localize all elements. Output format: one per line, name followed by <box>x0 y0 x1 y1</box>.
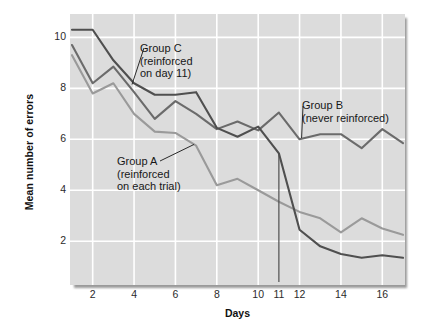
x-axis-tick-label: 8 <box>205 288 229 300</box>
x-axis-tick-label: 4 <box>122 288 146 300</box>
x-axis-tick-label: 12 <box>288 288 312 300</box>
series-line-group-a <box>72 55 403 235</box>
y-axis-tick-label: 2 <box>42 234 66 246</box>
y-axis-ticks: 108642 <box>30 0 66 331</box>
y-axis-title: Mean number of errors <box>23 57 35 247</box>
grid-lines <box>70 14 405 285</box>
chart-figure: 108642 Mean number of errors Days Group … <box>0 0 431 331</box>
chart-svg <box>70 14 405 285</box>
annotation-group-b: Group B (never reinforced) <box>302 99 389 124</box>
annotation-group-a: Group A (reinforced on each trial) <box>117 155 181 193</box>
y-axis-tick-label: 6 <box>42 132 66 144</box>
x-axis-tick-label: 16 <box>370 288 394 300</box>
x-axis-tick-label: 14 <box>329 288 353 300</box>
x-axis-tick-label: 6 <box>163 288 187 300</box>
x-axis-title: Days <box>70 307 405 319</box>
y-axis-tick-label: 8 <box>42 81 66 93</box>
y-axis-tick-label: 4 <box>42 183 66 195</box>
x-axis-tick-label: 2 <box>81 288 105 300</box>
y-axis-tick-label: 10 <box>42 30 66 42</box>
annotation-group-c: Group C (reinforced on day 11) <box>140 42 193 80</box>
plot-area <box>70 14 405 285</box>
